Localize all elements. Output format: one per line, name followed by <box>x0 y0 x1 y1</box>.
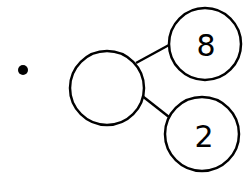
connector-top <box>136 45 169 63</box>
whole-circle <box>70 51 144 125</box>
part-value-top: 8 <box>196 28 215 63</box>
connector-bottom <box>141 95 169 117</box>
number-bond-diagram: 8 2 <box>0 0 248 177</box>
bullet-point <box>18 65 28 75</box>
part-value-bottom: 2 <box>194 119 213 154</box>
